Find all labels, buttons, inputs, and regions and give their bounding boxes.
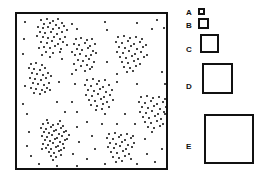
- scatter-point: [140, 96, 142, 98]
- scatter-point: [47, 72, 49, 74]
- scatter-point: [106, 137, 108, 139]
- scatter-point: [58, 150, 60, 152]
- scatter-point: [116, 51, 118, 53]
- scatter-point: [55, 129, 57, 131]
- scatter-point: [71, 101, 73, 103]
- scatter-point: [52, 142, 54, 144]
- scatter-point: [73, 43, 75, 45]
- scatter-point: [147, 107, 149, 109]
- scatter-point: [66, 44, 68, 46]
- scatter-point: [41, 135, 43, 137]
- scatter-point: [101, 108, 103, 110]
- scatter-point: [151, 110, 153, 112]
- scatter-point: [136, 22, 138, 24]
- scatter-point: [148, 117, 150, 119]
- scatter-point: [49, 140, 51, 142]
- scatter-point: [60, 127, 62, 129]
- scatter-point: [137, 58, 139, 60]
- scatter-point: [42, 27, 44, 29]
- scatter-point: [93, 90, 95, 92]
- scatter-point: [46, 119, 48, 121]
- scatter-point: [41, 89, 43, 91]
- scatter-point: [128, 153, 130, 155]
- scatter-point: [49, 56, 51, 58]
- scatter-point: [93, 61, 95, 63]
- scatter-point: [161, 71, 163, 73]
- scatter-point: [60, 154, 62, 156]
- scatter-point: [50, 31, 52, 33]
- scatter-point: [133, 142, 135, 144]
- scatter-point: [64, 36, 66, 38]
- scatter-point: [164, 113, 166, 115]
- scatter-point: [36, 73, 38, 75]
- scatter-point: [24, 85, 26, 87]
- scatter-point: [131, 146, 133, 148]
- scatter-point: [125, 148, 127, 150]
- scatter-point: [118, 157, 120, 159]
- scatter-point: [53, 130, 55, 132]
- scatter-point: [80, 65, 82, 67]
- legend-label-a: A: [186, 9, 192, 17]
- scatter-point: [34, 78, 36, 80]
- scatter-point: [141, 106, 143, 108]
- scatter-point: [52, 52, 54, 54]
- scatter-point: [53, 152, 55, 154]
- scatter-point: [81, 49, 83, 51]
- scatter-point: [48, 132, 50, 134]
- scatter-point: [37, 26, 39, 28]
- legend-label-d: D: [186, 83, 192, 91]
- scatter-point: [116, 152, 118, 154]
- scatter-point: [44, 91, 46, 93]
- scatter-point: [125, 57, 127, 59]
- scatter-point: [47, 144, 49, 146]
- scatter-point: [41, 54, 43, 56]
- scatter-point: [115, 41, 117, 43]
- scatter-point: [46, 42, 48, 44]
- scatter-point: [61, 58, 63, 60]
- scatter-point: [134, 53, 136, 55]
- scatter-point: [30, 155, 32, 157]
- scatter-point: [108, 133, 110, 135]
- scatter-point: [59, 51, 61, 53]
- scatter-point: [143, 56, 145, 58]
- scatter-point: [144, 121, 146, 123]
- scatter-point: [76, 28, 78, 30]
- scatter-point: [85, 55, 87, 57]
- scatter-point: [121, 61, 123, 63]
- scatter-point: [29, 77, 31, 79]
- scatter-point: [156, 103, 158, 105]
- scatter-point: [134, 123, 136, 125]
- scatter-point: [108, 106, 110, 108]
- scatter-point: [139, 111, 141, 113]
- scatter-point: [80, 37, 82, 39]
- scatter-point: [86, 39, 88, 41]
- scatter-point: [119, 56, 121, 58]
- scatter-point: [126, 71, 128, 73]
- scatter-point: [121, 42, 123, 44]
- scatter-point: [71, 51, 73, 53]
- scatter-point: [55, 156, 57, 158]
- scatter-point: [49, 47, 51, 49]
- scatter-point: [57, 145, 59, 147]
- scatter-point: [40, 19, 42, 21]
- scatter-point: [55, 146, 57, 148]
- scatter-point: [60, 149, 62, 151]
- scatter-point: [124, 155, 126, 157]
- scatter-point: [94, 43, 96, 45]
- scatter-point: [135, 36, 137, 38]
- scatter-point: [49, 22, 51, 24]
- scatter-point: [86, 64, 88, 66]
- scatter-point: [39, 69, 41, 71]
- scatter-point: [152, 97, 154, 99]
- scatter-point: [37, 83, 39, 85]
- scatter-point: [138, 101, 140, 103]
- scatter-point: [99, 88, 101, 90]
- scatter-point: [127, 62, 129, 64]
- scatter-point: [150, 122, 152, 124]
- scatter-point: [41, 64, 43, 66]
- scatter-point: [106, 29, 108, 31]
- scatter-point: [112, 99, 114, 101]
- scatter-point: [145, 112, 147, 114]
- scatter-point: [136, 163, 138, 165]
- scatter-point: [47, 26, 49, 28]
